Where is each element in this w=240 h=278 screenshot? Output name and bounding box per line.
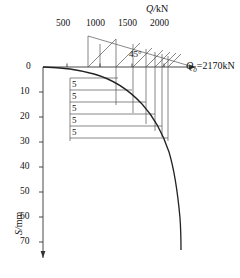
y-tick-label-20: 20 [20,112,30,122]
y-axis-arrow [41,251,46,258]
step-block-group [70,78,168,141]
figure-drawing [0,0,240,278]
x-tick-label-500: 500 [56,19,70,29]
y-tick-label-70: 70 [20,237,30,247]
diagonal-45-g [168,54,181,67]
diagonal-45-a [88,39,116,67]
x-tick-label-1000: 1000 [86,19,105,29]
vertical-drop-lines [88,36,168,141]
step-label-4: 5 [72,116,77,125]
x-tick-label-2000: 2000 [150,19,169,29]
y-axis-ticks [39,92,43,242]
y-tick-label-30: 30 [20,137,30,147]
y-tick-label-50: 50 [20,187,30,197]
y-tick-label-10: 10 [20,87,30,97]
angle-45-label: 45° [129,50,142,59]
figure-container: 500 1000 1500 2000 Q/kN 0 10 20 30 40 50… [0,0,240,278]
y-axis-title: S/mm [14,212,24,235]
step-label-3: 5 [72,104,77,113]
y-axis-title-separator: / [13,227,24,230]
y-tick-label-0: 0 [26,62,31,72]
diagonal-45-f [162,53,176,67]
x-axis-title-unit: kN [156,3,168,14]
x-tick-label-1500: 1500 [118,19,137,29]
step-label-1: 5 [72,80,77,89]
q0-annotation: Q0=2170kN [186,61,235,74]
q0-value: 2170kN [202,60,234,71]
y-axis-title-unit: mm [13,212,24,228]
step-label-2: 5 [72,92,77,101]
x-axis-title: Q/kN [146,4,168,14]
diagonal-45-d [146,50,163,67]
step-label-5: 5 [72,128,77,137]
y-axis-title-symbol: S [13,230,24,235]
y-tick-label-40: 40 [20,162,30,172]
qs-curve [43,67,181,250]
